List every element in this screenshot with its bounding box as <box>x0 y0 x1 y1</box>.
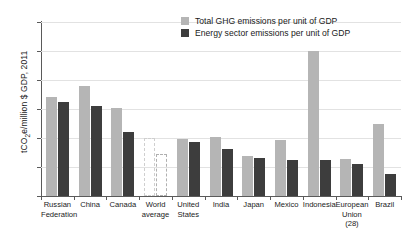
bar-group <box>340 22 363 196</box>
legend-item: Total GHG emissions per unit of GDP <box>181 16 350 26</box>
bar-group <box>373 22 396 196</box>
bar-light <box>177 139 188 196</box>
legend-swatch-light <box>181 17 189 25</box>
bar-light <box>373 124 384 197</box>
x-axis-label: China <box>74 200 107 210</box>
x-axis-label-line: Russian <box>41 200 74 210</box>
x-axis-label-line: India <box>205 200 238 210</box>
x-axis-label-line: States <box>172 210 205 220</box>
x-axis-label: UnitedStates <box>172 200 205 219</box>
emissions-intensity-bar-chart: tCO2e/million $ GDP, 2011 02004006008001… <box>0 0 404 247</box>
x-axis-label-line: China <box>74 200 107 210</box>
y-axis-tick <box>37 109 41 110</box>
x-axis-label: RussianFederation <box>41 200 74 219</box>
y-axis-tick <box>37 138 41 139</box>
x-axis-label: Indonesia <box>303 200 336 210</box>
bar-group <box>210 22 233 196</box>
bar-dark <box>91 106 102 196</box>
x-axis-label-line: Canada <box>106 200 139 210</box>
bar-light <box>308 51 319 196</box>
plot-area: 020040060080010001200 <box>41 22 401 196</box>
x-axis-label: India <box>205 200 238 210</box>
bar-light <box>46 97 57 196</box>
bar-light <box>340 159 351 196</box>
bar-dark <box>58 102 69 196</box>
bar-group <box>275 22 298 196</box>
bar-dark <box>254 158 265 196</box>
bar-dark <box>385 174 396 196</box>
y-axis-title-prefix: tCO <box>19 138 29 153</box>
bar-dark <box>189 142 200 196</box>
legend-item: Energy sector emissions per unit of GDP <box>181 28 350 38</box>
x-axis-label-line: average <box>139 210 172 220</box>
x-axis-label: Mexico <box>270 200 303 210</box>
x-axis-label: Canada <box>106 200 139 210</box>
y-axis-tick <box>37 51 41 52</box>
x-axis-label-line: Federation <box>41 210 74 220</box>
x-axis-label-line: United <box>172 200 205 210</box>
bar-dark <box>320 160 331 196</box>
legend-label: Total GHG emissions per unit of GDP <box>195 16 337 26</box>
x-axis-tick <box>401 196 402 200</box>
y-axis-tick <box>37 167 41 168</box>
x-axis-label-line: Japan <box>237 200 270 210</box>
x-axis-label-line: Union (28) <box>336 210 369 229</box>
bar-dark <box>287 160 298 196</box>
bar-group <box>177 22 200 196</box>
legend-label: Energy sector emissions per unit of GDP <box>195 28 350 38</box>
bar-group <box>144 22 167 196</box>
bar-group <box>46 22 69 196</box>
bar-group <box>242 22 265 196</box>
x-axis-label: EuropeanUnion (28) <box>336 200 369 229</box>
bar-dark <box>123 132 134 196</box>
bar-light <box>210 137 221 196</box>
x-axis-label-line: Indonesia <box>303 200 336 210</box>
x-axis-label-line: Mexico <box>270 200 303 210</box>
bar-group <box>79 22 102 196</box>
chart-legend: Total GHG emissions per unit of GDPEnerg… <box>181 16 350 40</box>
y-axis-tick <box>37 22 41 23</box>
bar-dark <box>222 149 233 196</box>
y-axis-title: tCO2e/million $ GDP, 2011 <box>19 17 31 187</box>
bar-dark <box>352 164 363 196</box>
x-axis-label: Brazil <box>368 200 401 210</box>
bar-group <box>308 22 331 196</box>
y-axis-tick <box>37 80 41 81</box>
bar-light <box>144 138 155 196</box>
bar-light <box>275 140 286 196</box>
y-axis-title-suffix: e/million $ GDP, 2011 <box>19 51 29 134</box>
bar-light <box>242 156 253 196</box>
bar-group <box>111 22 134 196</box>
bar-light <box>79 86 90 196</box>
x-axis-label-line: European <box>336 200 369 210</box>
x-axis-label-line: Brazil <box>368 200 401 210</box>
x-axis-label-line: World <box>139 200 172 210</box>
x-axis-label: Worldaverage <box>139 200 172 219</box>
x-axis-label: Japan <box>237 200 270 210</box>
bar-dark <box>156 154 167 196</box>
y-axis-title-subscript: 2 <box>24 134 31 138</box>
x-axis-line <box>41 196 401 197</box>
legend-swatch-dark <box>181 29 189 37</box>
bar-light <box>111 108 122 196</box>
